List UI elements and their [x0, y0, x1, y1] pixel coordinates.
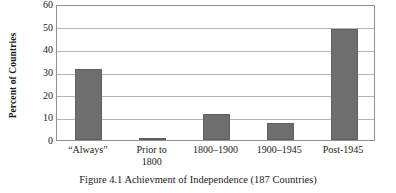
- y-axis-tick-label: 60: [20, 0, 53, 10]
- x-axis-tick-labels: “Always”Prior to 18001800–19001900–1945P…: [56, 144, 375, 170]
- bar: [267, 123, 294, 140]
- y-axis-tick-labels: 0102030405060: [20, 5, 53, 141]
- bar-series: [57, 6, 374, 140]
- x-axis-tick-label: 1900–1945: [247, 144, 311, 156]
- y-axis-tick-label: 20: [20, 91, 53, 101]
- x-axis-tick-label: Post-1945: [311, 144, 375, 156]
- bar: [75, 69, 102, 140]
- figure-caption: Figure 4.1 Achievment of Independence (1…: [0, 174, 396, 186]
- figure-bar-chart: Percent of Countries 0102030405060 “Alwa…: [0, 0, 396, 193]
- bar: [331, 29, 358, 140]
- bar: [203, 114, 230, 140]
- x-axis-tick-label: 1800–1900: [184, 144, 248, 156]
- y-axis-tick-label: 10: [20, 113, 53, 123]
- x-axis-tick-label: Prior to 1800: [120, 144, 184, 167]
- y-axis-title: Percent of Countries: [6, 3, 20, 148]
- bar: [139, 138, 166, 140]
- y-axis-tick-label: 0: [20, 136, 53, 146]
- x-axis-tick-label: “Always”: [56, 144, 120, 156]
- y-axis-tick-label: 30: [20, 68, 53, 78]
- y-axis-tick-label: 50: [20, 23, 53, 33]
- plot-area: [56, 5, 375, 141]
- y-axis-tick-label: 40: [20, 45, 53, 55]
